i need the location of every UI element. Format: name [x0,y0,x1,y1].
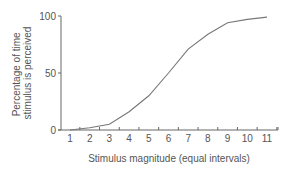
x-tick-label: 5 [146,133,152,144]
y-axis-title-line-2: stimulus is perceived [22,27,33,120]
x-tick-label: 2 [87,133,93,144]
y-tick-label: 100 [39,11,56,22]
psychometric-chart: 050100 1234567891011 Percentage of time … [0,0,293,172]
x-axis-title: Stimulus magnitude (equal intervals) [88,153,250,164]
x-tick-label: 3 [107,133,113,144]
x-tick-label: 1 [67,133,73,144]
y-axis-title: Percentage of time stimulus is perceived [11,27,33,120]
x-tick-label: 7 [185,133,191,144]
y-axis [58,16,61,130]
y-axis-title-line-1: Percentage of time [11,32,22,116]
y-tick-label: 50 [45,68,57,79]
x-tick-label: 8 [205,133,211,144]
x-tick-label: 11 [262,133,273,144]
x-tick-label: 6 [166,133,172,144]
x-tick-labels: 1234567891011 [67,133,272,144]
x-tick-label: 10 [242,133,254,144]
y-tick-label: 0 [50,125,56,136]
y-tick-labels: 050100 [39,11,56,136]
x-tick-label: 4 [126,133,132,144]
x-tick-label: 9 [225,133,231,144]
data-line [70,17,267,130]
